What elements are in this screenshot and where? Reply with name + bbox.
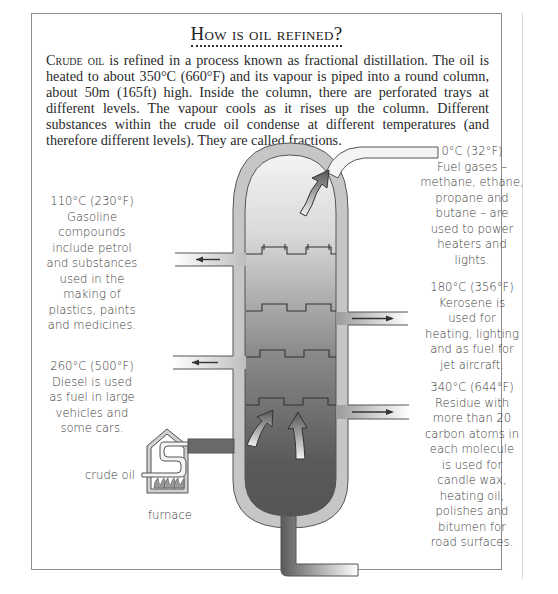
- fraction-label-residue: 340°C (644°F) Residue with more than 20 …: [424, 380, 520, 551]
- furnace-text: furnace: [148, 508, 192, 522]
- crude-oil-label: crude oil: [80, 468, 140, 484]
- crude-oil-text: crude oil: [85, 468, 135, 482]
- fraction-label-kerosene: 180°C (356°F) Kerosene is used for heati…: [424, 280, 520, 373]
- fraction-label-gasoline: 110°C (230°F) Gasoline compounds include…: [42, 194, 142, 334]
- temperature: 340°C (644°F): [424, 380, 520, 396]
- distillation-column: [233, 143, 348, 528]
- temperature: 110°C (230°F): [42, 194, 142, 210]
- temperature: 180°C (356°F): [424, 280, 520, 296]
- temperature: 0°C (32°F): [420, 144, 524, 160]
- description: Kerosene is used for heating, lighting a…: [424, 296, 520, 374]
- description: Residue with more than 20 carbon atoms i…: [424, 396, 520, 551]
- description: Fuel gases – methane, ethane, propane an…: [420, 160, 524, 269]
- description: Gasoline compounds include petrol and su…: [42, 210, 142, 334]
- residue-bottom-pipe: [281, 516, 358, 576]
- fraction-label-fuel-gases: 0°C (32°F) Fuel gases – methane, ethane,…: [420, 144, 524, 268]
- furnace: [142, 429, 234, 493]
- furnace-label: furnace: [140, 508, 200, 524]
- fraction-label-diesel: 260°C (500°F) Diesel is used as fuel in …: [44, 359, 140, 437]
- temperature: 260°C (500°F): [44, 359, 140, 375]
- description: Diesel is used as fuel in large vehicles…: [44, 375, 140, 437]
